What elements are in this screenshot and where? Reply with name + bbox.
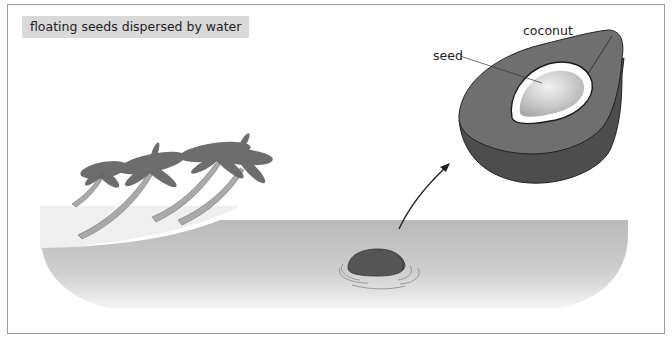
dispersal-arrow	[399, 163, 450, 229]
dispersal-scene	[0, 0, 672, 339]
seed-label: seed	[433, 48, 463, 63]
coconut-cross-section	[459, 30, 624, 183]
coconut-label: coconut	[523, 23, 573, 38]
